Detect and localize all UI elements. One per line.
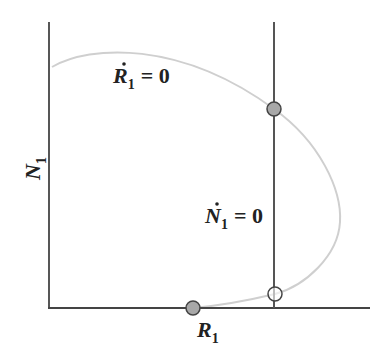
svg-text:N1= 0: N1= 0	[204, 203, 263, 232]
prey-isocline-curve	[52, 52, 340, 308]
equilibrium-upper-filled	[267, 102, 281, 116]
y-axis-label: N1	[20, 157, 49, 181]
prey-isocline-label: R1= 0	[112, 62, 170, 92]
phase-plane-diagram: R1= 0 N1= 0 R1 N1	[0, 0, 390, 357]
equilibrium-lower-open	[268, 287, 282, 301]
x-axis-label: R1	[196, 317, 219, 346]
equilibrium-axis-filled	[186, 301, 200, 315]
svg-text:R1= 0: R1= 0	[112, 63, 170, 92]
predator-isocline-label: N1= 0	[204, 202, 263, 232]
